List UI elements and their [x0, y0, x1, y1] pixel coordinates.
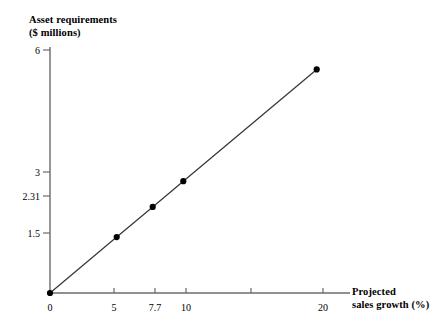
- data-point-marker: [47, 290, 53, 296]
- data-point-marker: [180, 178, 186, 184]
- data-point-marker: [150, 204, 156, 210]
- plot-area: [0, 0, 441, 334]
- data-point-marker: [314, 66, 320, 72]
- chart-container: Asset requirements ($ millions) Projecte…: [0, 0, 441, 334]
- data-point-marker: [114, 234, 120, 240]
